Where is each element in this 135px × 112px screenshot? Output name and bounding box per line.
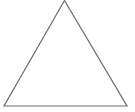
diagram-canvas	[0, 0, 135, 112]
triangle-shape	[4, 1, 127, 107]
triangle-figure	[0, 0, 135, 112]
